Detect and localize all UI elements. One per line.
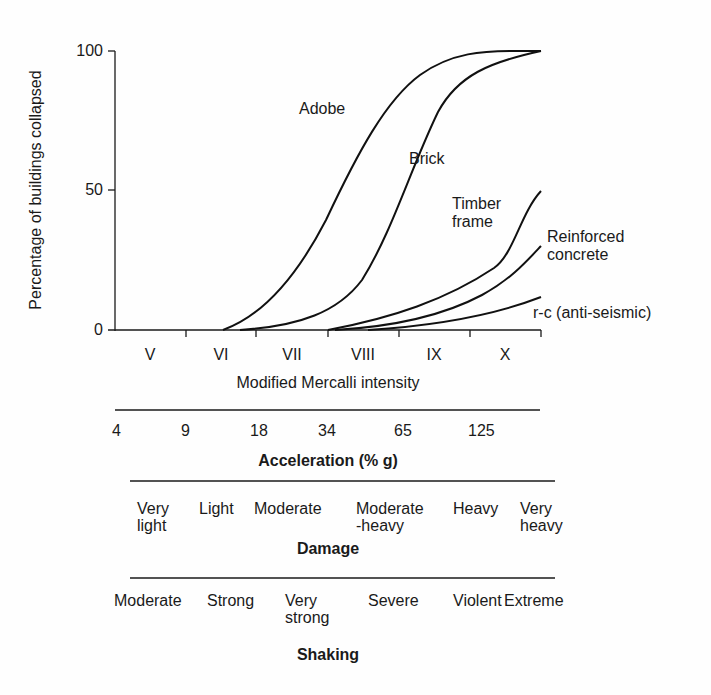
acceleration-value: 65 xyxy=(394,422,412,439)
shaking-item: Violent xyxy=(453,592,502,609)
x-tick-label: VII xyxy=(282,346,302,363)
series-label-adobe: Adobe xyxy=(299,100,345,117)
x-tick-label: IX xyxy=(426,346,441,363)
damage-item: Moderate-heavy xyxy=(356,500,424,534)
acceleration-value: 34 xyxy=(318,422,336,439)
acceleration-title: Acceleration (% g) xyxy=(258,452,398,469)
y-tick-100: 100 xyxy=(63,42,103,60)
x-axis-title: Modified Mercalli intensity xyxy=(236,374,419,391)
series-label-timber-2: frame xyxy=(452,213,493,230)
x-tick-label: X xyxy=(500,346,511,363)
damage-item: Heavy xyxy=(453,500,498,517)
series-label-timber: Timber xyxy=(452,195,501,212)
shaking-item: Severe xyxy=(368,592,419,609)
shaking-item: Strong xyxy=(207,592,254,609)
damage-item: Moderate xyxy=(254,500,322,517)
acceleration-value: 18 xyxy=(250,422,268,439)
y-axis-title: Percentage of buildings collapsed xyxy=(27,70,45,309)
acceleration-value: 9 xyxy=(181,422,190,439)
acceleration-value: 125 xyxy=(468,422,495,439)
timber-curve xyxy=(328,191,541,330)
series-label-rc-2: concrete xyxy=(547,246,608,263)
damage-item: Light xyxy=(199,500,234,517)
shaking-item: Extreme xyxy=(504,592,564,609)
shaking-item: Moderate xyxy=(114,592,182,609)
damage-item: Verylight xyxy=(137,500,169,534)
shaking-title: Shaking xyxy=(297,646,359,663)
rc-curve xyxy=(335,246,541,330)
y-tick-0: 0 xyxy=(63,321,103,339)
x-tick-label: V xyxy=(145,346,156,363)
brick-curve xyxy=(240,51,541,330)
acceleration-value: 4 xyxy=(112,422,121,439)
damage-title: Damage xyxy=(297,540,359,557)
chart-root: Percentage of buildings collapsed 100 50… xyxy=(0,0,711,695)
x-tick-label: VI xyxy=(213,346,228,363)
damage-item: Veryheavy xyxy=(520,500,563,534)
shaking-item: Verystrong xyxy=(285,592,329,626)
series-label-rc-antiseismic: r-c (anti-seismic) xyxy=(533,304,651,321)
series-label-brick: Brick xyxy=(409,150,445,167)
y-tick-50: 50 xyxy=(63,181,103,199)
series-label-rc: Reinforced xyxy=(547,228,624,245)
x-tick-label: VIII xyxy=(351,346,375,363)
